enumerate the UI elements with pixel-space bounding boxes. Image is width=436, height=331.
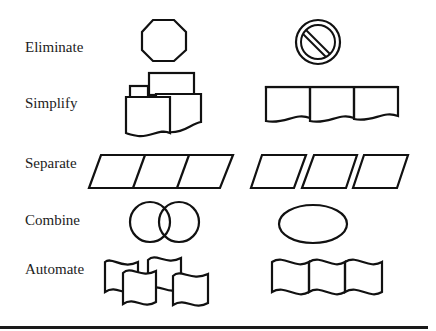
- separate-after-shapes: [251, 155, 408, 188]
- separate-before-shapes: [89, 155, 233, 188]
- diagram-canvas: [0, 0, 436, 331]
- automate-after-shapes: [272, 260, 382, 295]
- automate-before-shapes: [105, 257, 208, 305]
- simplify-after-shapes: [266, 87, 398, 122]
- ellipse-icon: [279, 205, 347, 243]
- simplify-before-shapes: [126, 73, 201, 136]
- prohibition-icon: [296, 20, 340, 64]
- two-circles-icon: [130, 202, 199, 242]
- octagon-icon: [142, 20, 186, 61]
- bottom-rule: [0, 326, 428, 329]
